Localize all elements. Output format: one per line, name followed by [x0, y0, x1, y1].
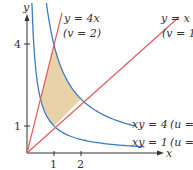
y-tick-1: 1 — [14, 120, 21, 133]
label-v-eq-1: (v = 1) — [162, 27, 193, 40]
label-y-eq-4x: y = 4x — [63, 12, 100, 25]
y-axis-arrow-icon — [25, 14, 30, 21]
label-u-eq-1: (u = 1) — [170, 136, 193, 149]
y-tick-4: 4 — [14, 38, 21, 51]
label-xy-eq-4: xy = 4 — [132, 118, 168, 131]
label-y-eq-x: y = x — [160, 12, 190, 25]
y-axis-label: y — [22, 1, 30, 14]
x-tick-1: 1 — [50, 158, 57, 170]
shaded-region — [41, 45, 82, 126]
x-axis-arrow-icon — [157, 151, 164, 156]
label-u-eq-2: (u = 2) — [170, 118, 193, 131]
diagram: y x 1 2 1 4 y = 4x (v = 2) y = x (v = 1)… — [0, 0, 193, 170]
label-xy-eq-1: xy = 1 — [132, 136, 168, 149]
x-tick-2: 2 — [77, 158, 84, 170]
label-v-eq-2: (v = 2) — [63, 27, 101, 40]
